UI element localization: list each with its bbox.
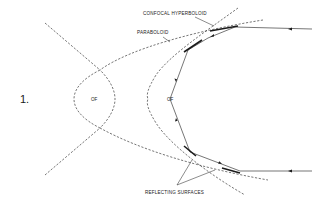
arrow-icon xyxy=(210,34,214,37)
reflecting-surface-top-2 xyxy=(184,40,202,52)
paraboloid-curve xyxy=(100,20,268,180)
left-hyperbola-upper-line xyxy=(45,23,100,70)
label-reflecting-surfaces: REFLECTING SURFACES xyxy=(145,190,204,195)
label-confocal-hyperboloid: CONFOCAL HYPERBOLOID xyxy=(143,11,207,16)
leader-paraboloid xyxy=(163,37,170,42)
figure-number: 1. xyxy=(20,93,29,105)
leader-confocal-hyperboloid xyxy=(195,17,214,26)
arrow-icon xyxy=(288,28,292,31)
confocal-hyperboloid-curve xyxy=(147,8,245,195)
optics-diagram: 1. CONFOCAL HYPERBOLOID PARABOLOID REFLE… xyxy=(0,0,336,212)
label-paraboloid: PARABOLOID xyxy=(137,30,169,35)
reflecting-surface-bottom-2 xyxy=(222,168,240,173)
reflecting-surface-top-1 xyxy=(210,26,238,31)
left-hyperbola-lower-line xyxy=(45,128,100,175)
focus-label-left: OF xyxy=(91,97,98,102)
arrow-icon xyxy=(218,161,222,164)
leader-reflecting-2 xyxy=(177,170,215,185)
focus-label-right: OF xyxy=(167,97,174,102)
incoming-ray-top xyxy=(170,27,312,171)
arrow-icon xyxy=(288,170,292,173)
leader-reflecting-1 xyxy=(177,160,192,185)
